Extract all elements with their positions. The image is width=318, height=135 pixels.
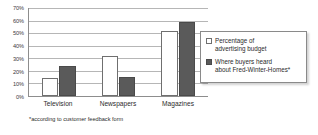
gridline xyxy=(29,96,208,97)
legend-entry-0: Percentage of advertising budget xyxy=(206,37,302,53)
bars-layer xyxy=(29,8,208,96)
legend-swatch-icon-0 xyxy=(206,38,212,44)
legend-entry-1: Where buyers heard about Fred-Winter-Hom… xyxy=(206,58,302,74)
y-axis-labels: 0%10%20%30%40%50%60%70% xyxy=(0,8,26,97)
y-axis-tick-label: 60% xyxy=(13,18,24,24)
bar-chart: 0%10%20%30%40%50%60%70% TelevisionNewspa… xyxy=(0,0,318,135)
bar xyxy=(179,22,195,96)
y-axis-tick-label: 30% xyxy=(13,56,24,62)
y-axis-tick-label: 50% xyxy=(13,30,24,36)
y-axis-tick-label: 20% xyxy=(13,69,24,75)
y-axis-tick-label: 10% xyxy=(13,81,24,87)
x-axis-tick-label: Newspapers xyxy=(100,99,137,108)
legend-label-0-line-1: Percentage of xyxy=(215,37,254,44)
bar xyxy=(59,66,75,96)
legend-label-0-line-2: advertising budget xyxy=(215,45,266,52)
legend-label-1-line-1: Where buyers heard xyxy=(215,58,272,65)
x-axis-labels: TelevisionNewspapersMagazines xyxy=(28,99,208,111)
plot-area xyxy=(28,8,208,97)
y-axis-tick-label: 40% xyxy=(13,43,24,49)
y-axis-tick-label: 70% xyxy=(13,5,24,11)
bar xyxy=(102,56,118,96)
bar-group xyxy=(89,8,149,96)
x-axis-tick-label: Magazines xyxy=(162,99,194,108)
legend-swatch-icon-1 xyxy=(206,59,212,65)
x-axis-tick-label: Television xyxy=(44,99,73,108)
bar xyxy=(119,77,135,96)
bar-group xyxy=(29,8,89,96)
bar xyxy=(42,78,58,96)
chart-legend: Percentage of advertising budget Where b… xyxy=(200,31,307,83)
y-axis-tick-label: 0% xyxy=(16,94,24,100)
legend-label-0: Percentage of advertising budget xyxy=(215,37,266,53)
bar xyxy=(161,31,177,96)
legend-label-1-line-2: about Fred-Winter-Homes* xyxy=(215,66,290,73)
legend-label-1: Where buyers heard about Fred-Winter-Hom… xyxy=(215,58,290,74)
chart-footnote: *according to customer feedback form xyxy=(29,116,123,123)
